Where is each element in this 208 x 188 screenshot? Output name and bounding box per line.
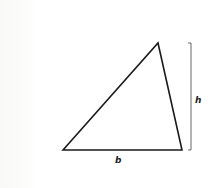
base-label: b [115,156,121,165]
triangle-diagram [0,0,208,188]
triangle-shape [63,43,182,150]
height-bracket [188,43,191,150]
height-label: h [195,96,201,105]
